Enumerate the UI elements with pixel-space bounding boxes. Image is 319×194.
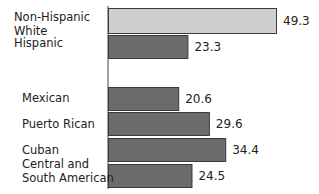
bar-puerto-rican bbox=[109, 113, 210, 136]
data-label: 24.5 bbox=[198, 169, 225, 183]
data-label: 29.6 bbox=[216, 117, 243, 131]
category-label: Mexican bbox=[22, 91, 69, 105]
category-label: Hispanic bbox=[14, 36, 63, 50]
data-label: 34.4 bbox=[232, 143, 259, 157]
category-label: Central and South American bbox=[22, 157, 114, 185]
data-label: 20.6 bbox=[185, 92, 212, 106]
bar-hispanic bbox=[109, 36, 188, 59]
bar-mexican bbox=[109, 88, 179, 111]
bar-non-hispanic-white bbox=[109, 9, 277, 34]
category-label: Non-Hispanic White bbox=[14, 10, 90, 38]
bar-cuban bbox=[109, 139, 226, 162]
category-label: Puerto Rican bbox=[22, 117, 95, 131]
data-label: 49.3 bbox=[283, 14, 310, 28]
category-label: Cuban bbox=[22, 143, 59, 157]
bar-central-and-south-american bbox=[109, 165, 192, 188]
data-label: 23.3 bbox=[194, 40, 221, 54]
